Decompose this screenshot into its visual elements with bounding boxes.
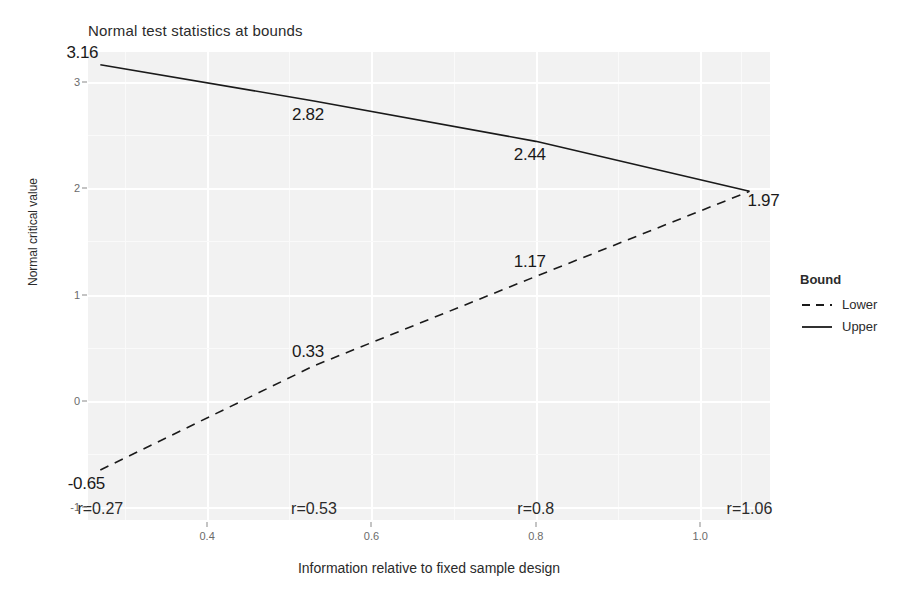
x-axis-tick-mark — [371, 522, 372, 527]
x-axis-tick-mark — [535, 522, 536, 527]
data-point-label: 2.82 — [292, 105, 324, 125]
legend-item-lower[interactable]: Lower — [800, 297, 910, 312]
r-annotation-label: r=1.06 — [727, 500, 773, 518]
data-series-layer — [88, 52, 770, 520]
legend-key-dashed-icon — [800, 298, 834, 312]
x-axis-tick-mark — [700, 522, 701, 527]
y-axis-title: Normal critical value — [26, 178, 40, 286]
y-axis-tick-mark — [82, 400, 87, 401]
y-axis-tick-mark — [82, 81, 87, 82]
chart-figure: Normal test statistics at bounds 3.162.8… — [0, 0, 914, 605]
series-line-lower — [100, 191, 749, 470]
x-axis-title: Information relative to fixed sample des… — [88, 560, 770, 576]
data-point-label: 1.97 — [748, 191, 780, 211]
series-line-upper — [100, 65, 749, 192]
r-annotation-label: r=0.8 — [517, 500, 554, 518]
chart-title: Normal test statistics at bounds — [88, 22, 303, 39]
data-point-label: 1.17 — [514, 252, 546, 272]
legend-item-label: Lower — [842, 297, 877, 312]
y-axis-tick-mark — [82, 507, 87, 508]
x-axis-tick-label: 0.8 — [528, 530, 543, 542]
legend-key-solid-icon — [800, 320, 834, 334]
y-axis-tick-mark — [82, 188, 87, 189]
x-axis-tick-label: 0.4 — [199, 530, 214, 542]
legend: Bound LowerUpper — [800, 272, 910, 341]
data-point-label: 2.44 — [514, 145, 546, 165]
data-point-label: 0.33 — [292, 342, 324, 362]
legend-items: LowerUpper — [800, 297, 910, 334]
data-point-label: -0.65 — [68, 474, 105, 494]
plot-panel: 3.162.822.441.97-0.650.331.17 r=0.27r=0.… — [88, 52, 770, 520]
legend-title: Bound — [800, 272, 910, 287]
x-axis-tick-mark — [207, 522, 208, 527]
y-axis-tick-mark — [82, 294, 87, 295]
x-axis-tick-label: 0.6 — [364, 530, 379, 542]
legend-item-label: Upper — [842, 319, 877, 334]
legend-item-upper[interactable]: Upper — [800, 319, 910, 334]
r-annotation-label: r=0.53 — [291, 500, 337, 518]
x-axis-tick-label: 1.0 — [693, 530, 708, 542]
data-point-label: 3.16 — [66, 43, 98, 63]
